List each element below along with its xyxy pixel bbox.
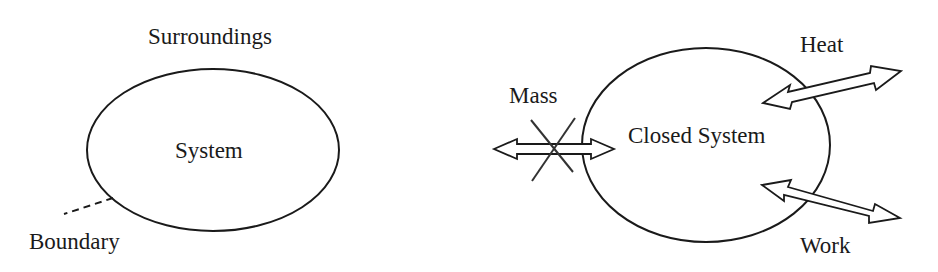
surroundings-label: Surroundings (148, 24, 272, 49)
open-system-group: Surroundings System Boundary (29, 24, 339, 254)
heat-double-arrow-icon (763, 66, 901, 109)
work-double-arrow-icon (762, 180, 900, 223)
work-label: Work (800, 233, 851, 258)
heat-label: Heat (800, 32, 844, 57)
mass-label: Mass (509, 83, 558, 108)
system-diagram: Surroundings System Boundary Closed Syst… (0, 0, 938, 272)
boundary-label: Boundary (29, 229, 120, 254)
boundary-leader-line (64, 198, 113, 214)
closed-system-label: Closed System (628, 123, 765, 148)
closed-system-group: Closed System Mass Heat Work (494, 32, 901, 258)
system-label: System (175, 138, 243, 163)
